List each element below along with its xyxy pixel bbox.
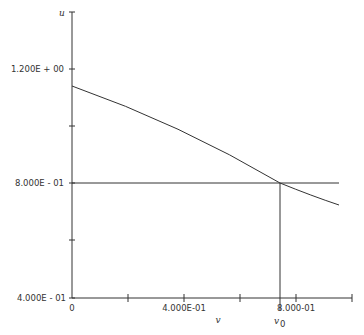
svg-text:v: v	[274, 316, 279, 326]
y-tick-label-0.4: 4.000E - 01	[17, 293, 66, 303]
x-tick-label-0.4: 4.000E-01	[162, 303, 206, 313]
y-axis-title: u	[59, 8, 65, 18]
data-curve	[72, 86, 339, 205]
y-tick-label-1.2: 1.200E + 00	[11, 64, 64, 74]
chart: 1.200E + 00 8.000E - 01 4.000E - 01 0 4.…	[0, 0, 364, 335]
x-tick-label-0.8: 8.000-01	[277, 303, 315, 313]
x-axis-title: v	[215, 315, 220, 325]
v0-label: v 0	[274, 316, 286, 329]
svg-text:0: 0	[280, 319, 285, 329]
x-tick-label-0: 0	[69, 303, 74, 313]
y-tick-label-0.8: 8.000E - 01	[15, 178, 64, 188]
